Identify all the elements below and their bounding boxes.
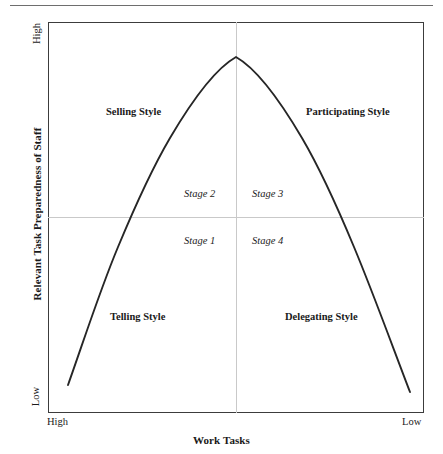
label-telling-style: Telling Style	[110, 311, 165, 322]
label-delegating-style: Delegating Style	[285, 311, 358, 322]
horizontal-divider-line	[48, 217, 424, 218]
label-participating-style: Participating Style	[306, 106, 390, 117]
label-stage-4: Stage 4	[252, 235, 283, 246]
label-selling-style: Selling Style	[106, 106, 161, 117]
y-axis-tick-high: High	[31, 14, 42, 54]
x-axis-title: Work Tasks	[0, 434, 443, 446]
situational-leadership-diagram: Relevant Task Preparedness of Staff High…	[0, 0, 443, 454]
x-axis-tick-high: High	[47, 416, 68, 427]
label-stage-1: Stage 1	[184, 235, 215, 246]
y-axis-title: Relevant Task Preparedness of Staff	[31, 94, 43, 334]
label-stage-3: Stage 3	[252, 188, 283, 199]
page-top-rule	[10, 5, 433, 6]
label-stage-2: Stage 2	[184, 188, 215, 199]
y-axis-tick-low: Low	[30, 377, 41, 417]
x-axis-tick-low: Low	[402, 416, 421, 427]
